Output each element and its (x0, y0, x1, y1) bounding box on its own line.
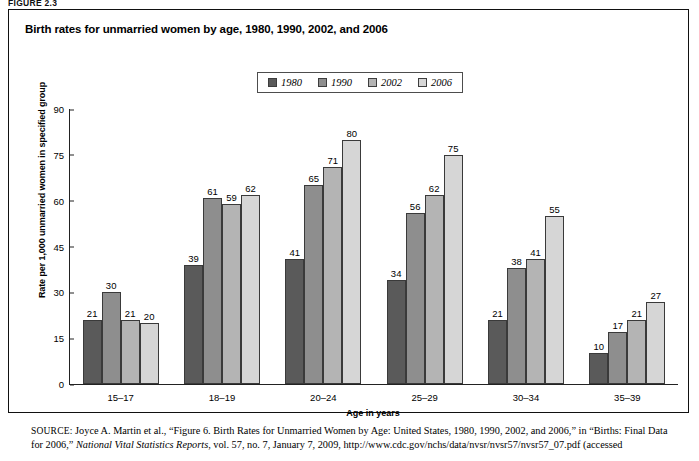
source-note: SOURCE: Joyce A. Martin et al., “Figure … (31, 424, 681, 451)
bar-2002-35-39: 21 (627, 320, 646, 384)
y-axis-tick-0: 0 (30, 379, 70, 390)
bar-value-label: 21 (492, 308, 503, 319)
bar-2002-18-19: 59 (222, 204, 241, 384)
chart-plot-area: 2130212015–173961596218–194165718020–243… (69, 109, 678, 385)
bar-1980-30-34: 21 (488, 320, 507, 384)
y-axis-tick-30: 30 (30, 287, 70, 298)
source-publication-title: National Vital Statistics Reports (76, 439, 208, 450)
bar-value-label: 39 (188, 253, 199, 264)
bar-value-label: 62 (429, 183, 440, 194)
bar-2006-15-17: 20 (140, 323, 159, 384)
source-text-2: , vol. 57, no. 7, January 7, 2009, http:… (208, 439, 622, 450)
source-label: SOURCE: (31, 426, 73, 436)
y-axis-tick-45: 45 (30, 241, 70, 252)
bar-value-label: 41 (530, 247, 541, 258)
bar-value-label: 20 (144, 311, 155, 322)
bar-1990-25-29: 56 (406, 213, 425, 384)
bar-1990-35-39: 17 (608, 332, 627, 384)
bar-value-label: 17 (613, 320, 624, 331)
y-axis-tick-90: 90 (30, 104, 70, 115)
bar-value-label: 71 (328, 155, 339, 166)
bar-2006-18-19: 62 (241, 195, 260, 384)
bar-1980-20-24: 41 (285, 259, 304, 384)
bar-groups: 2130212015–173961596218–194165718020–243… (70, 109, 678, 384)
bar-value-label: 21 (632, 308, 643, 319)
x-axis-tick-label: 25–29 (374, 392, 475, 403)
bar-value-label: 21 (87, 308, 98, 319)
bar-group-25-29: 3456627525–29 (374, 109, 475, 384)
bar-2002-30-34: 41 (526, 259, 545, 384)
x-axis-tick-label: 15–17 (70, 392, 171, 403)
bar-value-label: 34 (391, 268, 402, 279)
bar-value-label: 30 (106, 280, 117, 291)
bar-value-label: 38 (511, 256, 522, 267)
bar-group-30-34: 2138415530–34 (475, 109, 576, 384)
x-axis-tick-label: 30–34 (475, 392, 576, 403)
bar-2006-25-29: 75 (444, 155, 463, 384)
y-axis-tick-15: 15 (30, 333, 70, 344)
bar-value-label: 61 (207, 186, 218, 197)
bar-1990-20-24: 65 (304, 185, 323, 384)
figure-number-label: FIGURE 2.3 (8, 0, 57, 8)
bar-2006-20-24: 80 (342, 140, 361, 384)
bar-value-label: 10 (594, 341, 605, 352)
bar-2006-35-39: 27 (646, 302, 665, 385)
x-axis-tick-label: 20–24 (273, 392, 374, 403)
bar-group-20-24: 4165718020–24 (273, 109, 374, 384)
bar-value-label: 56 (410, 201, 421, 212)
chart-plot-wrapper: Rate per 1,000 unmarried women in specif… (9, 10, 690, 414)
bar-2006-30-34: 55 (545, 216, 564, 384)
bar-group-15-17: 2130212015–17 (70, 109, 171, 384)
bar-value-label: 41 (290, 247, 301, 258)
y-axis-tick-75: 75 (30, 149, 70, 160)
bar-value-label: 55 (549, 204, 560, 215)
bar-1980-25-29: 34 (387, 280, 406, 384)
x-axis-tick-label: 18–19 (171, 392, 272, 403)
bar-1980-18-19: 39 (184, 265, 203, 384)
bar-2002-20-24: 71 (323, 167, 342, 384)
y-axis-tick-60: 60 (30, 195, 70, 206)
bar-value-label: 80 (347, 128, 358, 139)
figure-panel: Birth rates for unmarried women by age, … (8, 9, 689, 413)
bar-1980-15-17: 21 (83, 320, 102, 384)
bar-value-label: 62 (245, 183, 256, 194)
bar-value-label: 27 (651, 290, 662, 301)
bar-1980-35-39: 10 (589, 353, 608, 384)
bar-group-18-19: 3961596218–19 (171, 109, 272, 384)
bar-1990-18-19: 61 (203, 198, 222, 384)
bar-2002-15-17: 21 (121, 320, 140, 384)
bar-1990-30-34: 38 (507, 268, 526, 384)
bar-value-label: 21 (125, 308, 136, 319)
bar-value-label: 59 (226, 192, 237, 203)
x-axis-tick-label: 35–39 (577, 392, 678, 403)
bar-value-label: 65 (309, 173, 320, 184)
x-axis-title: Age in years (69, 408, 677, 418)
bar-2002-25-29: 62 (425, 195, 444, 384)
bar-value-label: 75 (448, 143, 459, 154)
bar-1990-15-17: 30 (102, 292, 121, 384)
bar-group-35-39: 1017212735–39 (577, 109, 678, 384)
